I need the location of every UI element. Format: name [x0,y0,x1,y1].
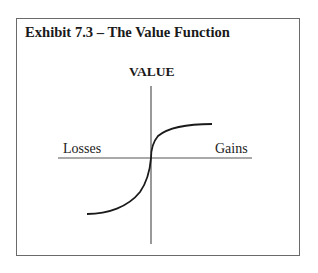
value-function-diagram [0,0,318,273]
value-curve-gains [151,124,212,158]
value-curve-losses [87,158,151,214]
